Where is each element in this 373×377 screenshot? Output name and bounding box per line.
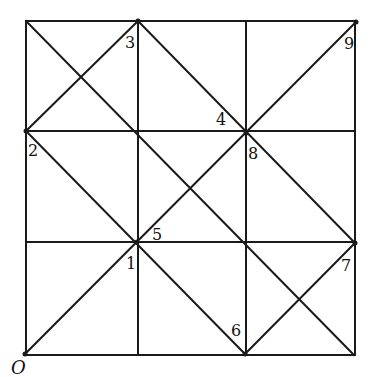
- label-7: 7: [341, 258, 351, 274]
- label-9: 9: [344, 36, 354, 52]
- label-6: 6: [231, 323, 241, 339]
- vertex-point-1: [135, 240, 140, 245]
- vertex-point-9: [354, 20, 359, 25]
- vertex-point-4: [244, 131, 249, 136]
- label-4: 4: [216, 112, 226, 128]
- label-origin: O: [11, 359, 26, 377]
- vertex-point-2: [24, 129, 29, 134]
- vertex-point-7: [353, 241, 358, 246]
- grid-diagonal-diagram: [0, 0, 373, 377]
- label-3: 3: [125, 35, 135, 51]
- label-1: 1: [126, 256, 136, 272]
- diagonal-lines: [25, 21, 356, 355]
- vertex-point-3: [136, 19, 141, 24]
- label-8: 8: [248, 146, 258, 162]
- label-2: 2: [28, 143, 38, 159]
- vertex-point-O: [23, 352, 28, 357]
- vertex-point-6: [243, 352, 248, 357]
- label-5: 5: [152, 227, 162, 243]
